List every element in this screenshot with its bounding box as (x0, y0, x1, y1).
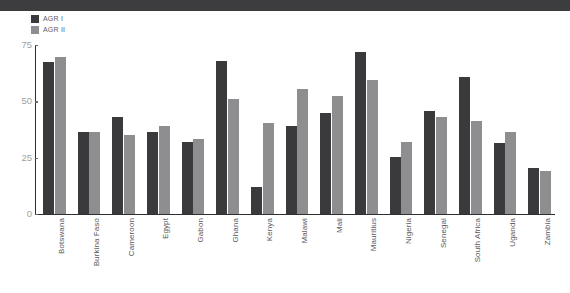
y-axis-tick-labels: 7550250 (0, 11, 32, 226)
bar[interactable] (147, 132, 158, 214)
bar[interactable] (528, 168, 539, 214)
x-axis-label: Malawi (300, 218, 309, 244)
bar[interactable] (367, 80, 378, 214)
bar[interactable] (494, 143, 505, 214)
bar-group (147, 11, 170, 214)
bar-group (459, 11, 482, 214)
bar-chart: AGR IAGR II 7550250 BotswanaBurkina Faso… (0, 11, 570, 293)
bar-group (182, 11, 205, 214)
x-axis-label: Nigeria (404, 218, 413, 244)
bar[interactable] (355, 52, 366, 214)
bar[interactable] (332, 96, 343, 214)
y-axis-tick-mark (35, 214, 38, 215)
bar[interactable] (471, 121, 482, 215)
x-axis-label: Egypt (161, 218, 170, 239)
bar-group (424, 11, 447, 214)
top-banner-bar (0, 0, 570, 11)
bar-group (251, 11, 274, 214)
y-axis-tick-mark (35, 158, 38, 159)
bar-group (78, 11, 101, 214)
bar-group (112, 11, 135, 214)
bar-group (216, 11, 239, 214)
x-axis-label: Mauritius (369, 218, 378, 251)
bar-group (390, 11, 413, 214)
bar[interactable] (286, 126, 297, 214)
x-axis-label: Burkina Faso (92, 218, 101, 266)
x-axis-label: Gabon (196, 218, 205, 243)
y-axis-tick-mark (35, 45, 38, 46)
bar[interactable] (401, 142, 412, 214)
bar[interactable] (124, 135, 135, 214)
y-axis-tick-label: 50 (2, 96, 32, 105)
y-axis-tick-label: 0 (2, 209, 32, 218)
bar[interactable] (112, 117, 123, 214)
y-axis-tick-label: 25 (2, 153, 32, 162)
x-axis-label: Ghana (231, 218, 240, 243)
x-axis-label: Kenya (265, 218, 274, 241)
bar[interactable] (297, 89, 308, 214)
bar[interactable] (182, 142, 193, 214)
bar[interactable] (216, 61, 227, 214)
bar[interactable] (159, 126, 170, 214)
bar[interactable] (320, 113, 331, 214)
bar[interactable] (505, 132, 516, 214)
x-axis-label: Zambia (543, 218, 552, 245)
bar[interactable] (89, 132, 100, 214)
bar[interactable] (78, 132, 89, 214)
bar[interactable] (193, 139, 204, 214)
bar-group (43, 11, 66, 214)
bar[interactable] (436, 117, 447, 214)
x-axis-label: Cameroon (127, 218, 136, 256)
bar-group (494, 11, 517, 214)
x-axis-category-labels: BotswanaBurkina FasoCameroonEgyptGabonGh… (35, 216, 555, 293)
bar[interactable] (424, 111, 435, 214)
x-axis-label: Mali (335, 218, 344, 233)
bar[interactable] (43, 62, 54, 214)
bar[interactable] (55, 57, 66, 214)
y-axis-tick-label: 75 (2, 40, 32, 49)
y-axis-tick-mark (35, 101, 38, 102)
bar[interactable] (390, 157, 401, 214)
x-axis-label: Uganda (508, 218, 517, 247)
bar[interactable] (540, 171, 551, 214)
bar[interactable] (459, 77, 470, 214)
x-axis-label: Botswana (57, 218, 66, 254)
bar-group (355, 11, 378, 214)
x-axis-label: South Africa (473, 218, 482, 262)
bar[interactable] (251, 187, 262, 214)
bar-group (320, 11, 343, 214)
x-axis-label: Senegal (439, 218, 448, 248)
bar-groups (35, 11, 555, 214)
bar[interactable] (228, 99, 239, 214)
bar-group (286, 11, 309, 214)
bar-group (528, 11, 551, 214)
bar[interactable] (263, 123, 274, 214)
